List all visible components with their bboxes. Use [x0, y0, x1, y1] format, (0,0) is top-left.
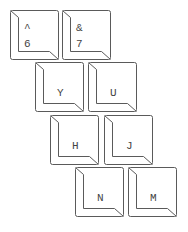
key-main-symbol: J: [126, 141, 133, 152]
key-main-symbol: 7: [76, 39, 83, 50]
key-main-symbol: Y: [57, 88, 64, 99]
key-cap-shape: [10, 10, 59, 60]
key-main-symbol: M: [150, 193, 157, 204]
key-n[interactable]: N: [75, 167, 124, 217]
key-u[interactable]: U: [88, 62, 137, 112]
key-cap-shape: [62, 10, 111, 60]
key-main-symbol: U: [110, 88, 117, 99]
key-7[interactable]: & 7: [62, 10, 111, 60]
key-6[interactable]: ^ 6: [10, 10, 59, 60]
key-main-symbol: N: [97, 193, 104, 204]
key-j[interactable]: J: [104, 115, 153, 165]
key-h[interactable]: H: [50, 115, 99, 165]
key-shift-symbol: &: [76, 23, 83, 34]
key-m[interactable]: M: [128, 167, 177, 217]
key-main-symbol: H: [72, 141, 79, 152]
key-main-symbol: 6: [24, 39, 31, 50]
keyboard-keys-diagram: ^ 6 & 7 Y U H J: [0, 0, 188, 232]
key-y[interactable]: Y: [35, 62, 84, 112]
key-shift-symbol: ^: [24, 23, 31, 34]
